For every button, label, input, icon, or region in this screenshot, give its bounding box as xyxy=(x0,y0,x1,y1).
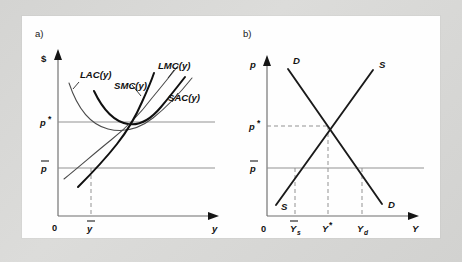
panel-b-xtick-ystar-star: * xyxy=(329,220,333,230)
leader-lac xyxy=(73,82,79,89)
panel-b-xtick-ystar: Y xyxy=(322,223,329,234)
panel-b-xtick-yd-sub: d xyxy=(364,229,369,236)
panel-a: a) xyxy=(22,16,231,238)
curve-label-sac: SAC(y) xyxy=(168,92,200,103)
curve-label-supply-bottom: S xyxy=(281,201,288,212)
panel-a-x-axis-label: y xyxy=(211,223,218,234)
panel-b-xtick-yd: Y xyxy=(357,223,364,234)
curve-label-demand-top: D xyxy=(293,55,300,66)
panel-b-xtick-ysbar-sub: s xyxy=(297,229,301,236)
panel-a-ytick-pbar: p xyxy=(40,163,47,174)
panel-b-x-axis-arrow xyxy=(408,212,419,220)
panel-a-ytick-pstar: p xyxy=(39,117,46,128)
panel-b-y-axis-label: p xyxy=(249,59,256,70)
panel-b-y-axis-arrow xyxy=(263,55,271,66)
panel-b-origin-label: 0 xyxy=(261,224,266,234)
panel-b-x-axis-label: Y xyxy=(412,223,420,234)
curve-label-demand-bottom: D xyxy=(388,199,395,210)
panel-b-ytick-pbar: p xyxy=(249,163,256,174)
curve-label-smc: SMC(y) xyxy=(114,80,147,91)
figure-root: a) xyxy=(0,0,462,262)
panel-a-y-axis-arrow xyxy=(54,49,62,60)
panel-a-ytick-pstar-star: * xyxy=(48,114,52,124)
curve-label-supply-top: S xyxy=(379,59,386,70)
figure-plate: a) xyxy=(22,16,440,238)
curve-label-lac: LAC(y) xyxy=(80,69,111,80)
panel-a-xtick-ybar: y xyxy=(86,223,93,234)
panel-a-plot: LAC(y) SMC(y) LMC(y) SAC(y) $ y p * p 0 … xyxy=(22,16,231,238)
panel-a-x-axis-arrow xyxy=(208,212,219,220)
panel-b-ytick-pstar: p xyxy=(248,121,255,132)
panel-b-xtick-ysbar: Y xyxy=(290,223,297,234)
leader-lmc xyxy=(168,70,174,78)
panel-b-plot: D D S S p Y p * p 0 Y s Y xyxy=(231,16,440,238)
curve-supply xyxy=(276,70,373,205)
panel-a-origin-label: 0 xyxy=(52,223,57,233)
panel-b-ytick-pstar-star: * xyxy=(257,118,261,128)
curve-demand xyxy=(288,69,382,204)
panel-b: b) xyxy=(231,16,440,238)
curve-label-lmc: LMC(y) xyxy=(158,60,191,71)
panel-a-y-axis-label: $ xyxy=(41,53,47,64)
